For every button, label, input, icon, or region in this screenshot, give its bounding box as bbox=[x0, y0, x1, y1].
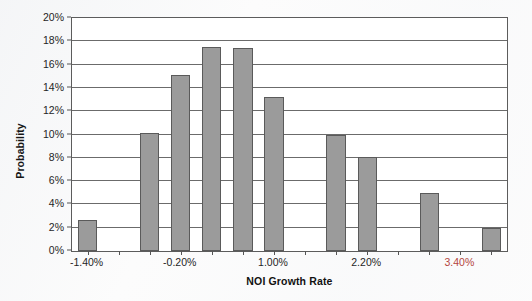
x-axis-tick bbox=[212, 251, 213, 255]
y-axis-tick-label: 12% bbox=[43, 104, 64, 116]
y-axis-tick-label: 20% bbox=[43, 11, 64, 23]
x-axis-tick bbox=[119, 251, 120, 255]
x-axis-tick bbox=[460, 251, 461, 255]
x-axis-tick bbox=[398, 251, 399, 255]
gridline bbox=[72, 64, 507, 65]
gridline bbox=[72, 203, 507, 204]
bar bbox=[202, 47, 221, 251]
y-axis-tick-label: 14% bbox=[43, 81, 64, 93]
x-axis-tick-label: -0.20% bbox=[163, 256, 196, 268]
gridline bbox=[72, 227, 507, 228]
y-axis-tick-label: 6% bbox=[49, 174, 64, 186]
x-axis-tick-label: 1.00% bbox=[258, 256, 288, 268]
bar bbox=[171, 75, 190, 251]
gridline bbox=[72, 87, 507, 88]
bar bbox=[420, 193, 439, 251]
bar bbox=[140, 133, 159, 251]
x-axis-tick bbox=[88, 251, 89, 255]
x-axis-tick-label: 3.40% bbox=[445, 256, 475, 268]
bar bbox=[264, 97, 283, 251]
gridline bbox=[72, 180, 507, 181]
x-axis-tick bbox=[181, 251, 182, 255]
plot-area bbox=[71, 17, 508, 252]
y-axis-tick-label: 10% bbox=[43, 128, 64, 140]
y-axis-tick-label: 18% bbox=[43, 34, 64, 46]
gridline bbox=[72, 134, 507, 135]
bar bbox=[233, 48, 252, 251]
x-axis-tick-label: -1.40% bbox=[70, 256, 103, 268]
x-axis-tick bbox=[429, 251, 430, 255]
gridline bbox=[72, 110, 507, 111]
x-axis-tick bbox=[274, 251, 275, 255]
x-axis-tick bbox=[491, 251, 492, 255]
y-axis-tick-label: 2% bbox=[49, 221, 64, 233]
bar bbox=[326, 135, 345, 252]
x-axis-tick bbox=[336, 251, 337, 255]
histogram-chart: Probability 0%2%4%6%8%10%12%14%16%18%20%… bbox=[0, 0, 532, 301]
y-axis-tick-label: 4% bbox=[49, 197, 64, 209]
bar bbox=[482, 228, 501, 251]
x-axis-tick-label: 2.20% bbox=[351, 256, 381, 268]
x-axis-labels: -1.40%-0.20%1.00%2.20%3.40% bbox=[71, 256, 508, 272]
y-axis-tick-label: 16% bbox=[43, 58, 64, 70]
gridline bbox=[72, 40, 507, 41]
x-axis-tick bbox=[150, 251, 151, 255]
x-axis-tick bbox=[367, 251, 368, 255]
x-axis-tick bbox=[305, 251, 306, 255]
bar bbox=[358, 157, 377, 251]
x-axis-title: NOI Growth Rate bbox=[71, 275, 508, 287]
y-axis-labels: 0%2%4%6%8%10%12%14%16%18%20% bbox=[0, 17, 71, 252]
y-axis-tick-label: 0% bbox=[49, 244, 64, 256]
y-axis-tick-label: 8% bbox=[49, 151, 64, 163]
bar bbox=[78, 220, 97, 251]
x-axis-tick bbox=[243, 251, 244, 255]
gridline bbox=[72, 157, 507, 158]
